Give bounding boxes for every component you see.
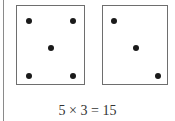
pip: [70, 73, 76, 79]
pip: [70, 18, 76, 24]
pip: [111, 18, 117, 24]
dice-card-five: [16, 5, 85, 85]
dice-card-three: [102, 5, 168, 85]
pip: [48, 45, 54, 51]
equation-text: 5 × 3 = 15: [0, 104, 175, 118]
pip: [26, 18, 32, 24]
pip: [155, 73, 161, 79]
pip: [26, 73, 32, 79]
pip: [133, 45, 139, 51]
left-margin-line: [3, 0, 4, 121]
